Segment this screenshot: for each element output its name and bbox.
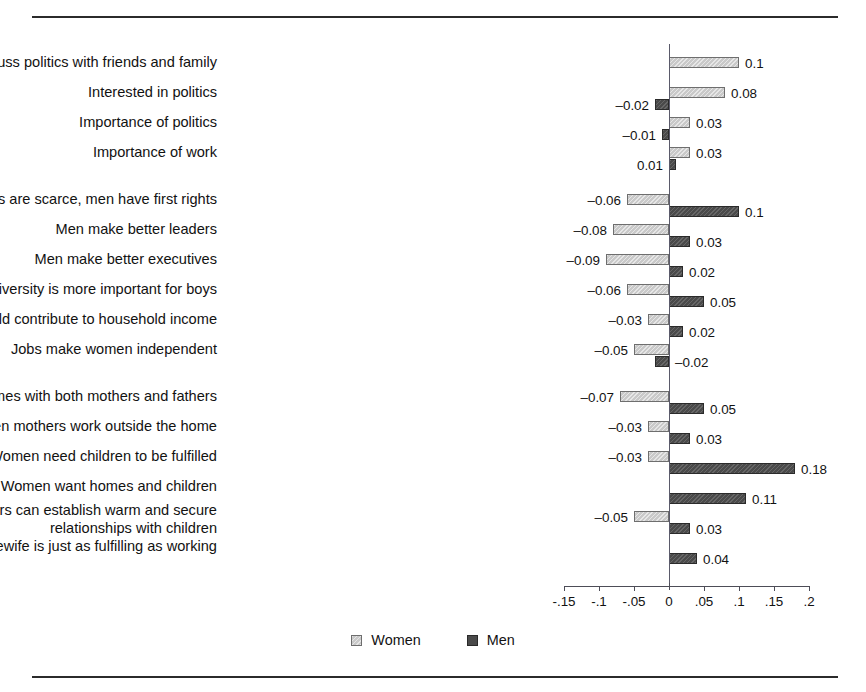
legend-label: Men [487, 632, 515, 648]
bar-value-label-women: 0.03 [696, 147, 722, 160]
chart-row: Men make better executives–0.090.02 [0, 251, 866, 281]
bar-men [669, 463, 795, 474]
bar-value-label-men: 0.05 [710, 296, 736, 309]
figure-panel: Discuss politics with friends and family… [0, 0, 866, 692]
figure-bottom-rule [32, 676, 838, 678]
bar-value-label-women: –0.07 [580, 391, 614, 404]
x-axis-tick-label: -.05 [622, 594, 645, 609]
x-axis-tick [634, 586, 635, 591]
bar-men [669, 326, 683, 337]
x-axis-tick-label: .2 [803, 594, 814, 609]
bar-women [669, 147, 690, 158]
category-label: Men make better executives [0, 251, 217, 268]
zero-axis-line [669, 44, 670, 586]
chart-row: Both women and men should contribute to … [0, 311, 866, 341]
x-axis: -.15-.1-.050.05.1.15.2 [0, 586, 866, 620]
category-label: Discuss politics with friends and family [0, 54, 217, 71]
bar-value-label-men: 0.02 [689, 326, 715, 339]
chart-row: Importance of politics0.03–0.01 [0, 114, 866, 144]
x-axis-tick-label: .05 [695, 594, 714, 609]
bar-value-label-men: 0.1 [745, 206, 764, 219]
bar-men [662, 129, 669, 140]
bar-men [669, 266, 683, 277]
chart-row: Being a housewife is just as fulfilling … [0, 538, 866, 568]
bar-women [634, 511, 669, 522]
category-label: Women need children to be fulfilled [0, 448, 217, 465]
legend-label: Women [371, 632, 420, 648]
bar-value-label-women: 0.1 [745, 57, 764, 70]
x-axis-tick-label: .1 [733, 594, 744, 609]
legend-swatch-icon [467, 635, 478, 646]
bar-value-label-women: –0.03 [608, 451, 642, 464]
chart-row: Jobs make women independent–0.05–0.02 [0, 341, 866, 371]
x-axis-tick [774, 586, 775, 591]
x-axis-tick [564, 586, 565, 591]
bar-value-label-men: 0.01 [637, 159, 663, 172]
bar-value-label-men: 0.05 [710, 403, 736, 416]
bar-men [669, 296, 704, 307]
plot-area: Discuss politics with friends and family… [0, 44, 866, 584]
bar-women [606, 254, 669, 265]
bar-women [648, 421, 669, 432]
legend-swatch-icon [351, 635, 362, 646]
bar-women [669, 87, 725, 98]
bar-value-label-women: –0.03 [608, 421, 642, 434]
bar-value-label-women: 0.03 [696, 117, 722, 130]
chart-row: Working mothers can establish warm and s… [0, 508, 866, 538]
bar-women [634, 344, 669, 355]
bar-men [655, 99, 669, 110]
bar-value-label-men: 0.11 [752, 493, 777, 506]
x-axis-tick [599, 586, 600, 591]
x-axis-tick [669, 583, 670, 590]
bar-women [627, 194, 669, 205]
legend-item-women[interactable]: Women [351, 632, 420, 648]
x-axis-tick [739, 586, 740, 591]
bar-value-label-women: 0.08 [731, 87, 757, 100]
x-axis-tick [704, 586, 705, 591]
bar-value-label-women: –0.06 [587, 194, 621, 207]
chart-row: When jobs are scarce, men have first rig… [0, 191, 866, 221]
chart-row: Women need children to be fulfilled–0.03… [0, 448, 866, 478]
bar-men [669, 493, 746, 504]
bar-value-label-men: –0.02 [675, 356, 709, 369]
x-axis-line [564, 586, 809, 587]
chart-row: Discuss politics with friends and family… [0, 54, 866, 84]
bar-men [669, 403, 704, 414]
category-label: When jobs are scarce, men have first rig… [0, 191, 217, 208]
category-label: Importance of politics [0, 114, 217, 131]
category-label: Working mothers can establish warm and s… [0, 502, 217, 537]
x-axis-tick-label: -.15 [552, 594, 575, 609]
x-axis-tick-label: 0 [665, 594, 672, 609]
bar-value-label-men: 0.04 [703, 553, 729, 566]
chart-row: Importance of work0.030.01 [0, 144, 866, 174]
category-label: Children need homes with both mothers an… [0, 388, 217, 405]
legend-item-men[interactable]: Men [467, 632, 515, 648]
category-label: Interested in politics [0, 84, 217, 101]
category-label: Men make better leaders [0, 221, 217, 238]
chart-legend: WomenMen [0, 629, 866, 651]
bar-men [669, 553, 697, 564]
bar-value-label-women: –0.05 [594, 511, 628, 524]
category-label: Importance of work [0, 144, 217, 161]
figure-top-rule [32, 16, 838, 18]
bar-value-label-women: –0.03 [608, 314, 642, 327]
category-label: Preschool children suffer when mothers w… [0, 418, 217, 435]
bar-value-label-men: 0.18 [801, 463, 827, 476]
bar-women [620, 391, 669, 402]
bar-men [669, 206, 739, 217]
chart-row: Preschool children suffer when mothers w… [0, 418, 866, 448]
bar-men [669, 523, 690, 534]
chart-row: Children need homes with both mothers an… [0, 388, 866, 418]
bar-value-label-women: –0.08 [573, 224, 607, 237]
bar-women [648, 451, 669, 462]
category-label: Both women and men should contribute to … [0, 311, 217, 328]
bar-women [669, 117, 690, 128]
bar-women [648, 314, 669, 325]
bar-women [613, 224, 669, 235]
bar-value-label-men: –0.02 [615, 99, 649, 112]
bar-men [669, 236, 690, 247]
bar-women [627, 284, 669, 295]
bar-value-label-men: 0.03 [696, 523, 722, 536]
bar-men [669, 433, 690, 444]
chart-row: Men make better leaders–0.080.03 [0, 221, 866, 251]
